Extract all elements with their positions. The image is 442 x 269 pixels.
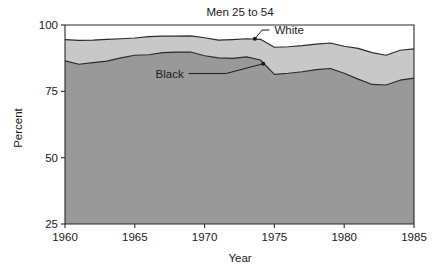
annotation-label-black: Black [156, 68, 184, 80]
y-tick-label: 100 [39, 19, 58, 31]
y-axis-title: Percent [12, 107, 24, 147]
plot-area-series [65, 36, 414, 224]
x-tick-label: 1975 [262, 231, 288, 243]
x-axis-title: Year [228, 252, 251, 264]
x-tick-label: 1970 [192, 231, 218, 243]
y-tick-label: 75 [45, 85, 58, 97]
chart-canvas: Men 25 to 54 255075100 19601965197019751… [0, 0, 442, 269]
x-tick-label: 1980 [331, 231, 357, 243]
x-tick-label: 1960 [52, 231, 78, 243]
y-axis-ticks: 255075100 [39, 19, 65, 230]
y-tick-label: 50 [45, 152, 58, 164]
x-tick-label: 1985 [401, 231, 427, 243]
chart-title-group: Men 25 to 54 [206, 6, 274, 18]
annotation-leader-white [255, 30, 270, 39]
chart-figure: Men 25 to 54 255075100 19601965197019751… [0, 0, 442, 269]
x-axis-ticks: 196019651970197519801985 [52, 224, 427, 243]
annotation-point-white [253, 37, 257, 41]
x-tick-label: 1965 [122, 231, 148, 243]
y-tick-label: 25 [45, 218, 58, 230]
annotation-point-black [261, 62, 265, 66]
annotation-label-white: White [274, 24, 303, 36]
chart-title: Men 25 to 54 [206, 6, 274, 18]
